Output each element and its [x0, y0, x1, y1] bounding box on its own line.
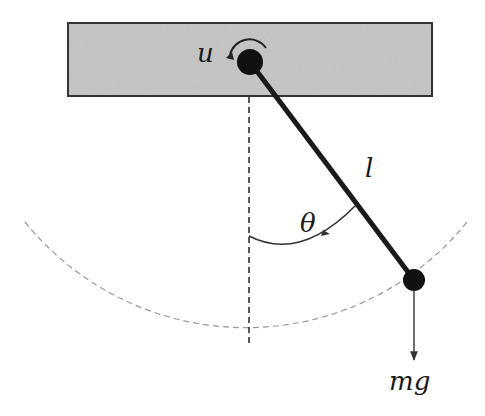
pivot-joint [237, 49, 263, 75]
pendulum-mass [403, 269, 425, 291]
gravity-label: mg [389, 368, 430, 394]
angle-label: θ [300, 210, 316, 236]
length-label: l [365, 155, 373, 181]
swing-path-arc [25, 222, 467, 328]
torque-label: u [197, 40, 214, 66]
pendulum-diagram [0, 0, 485, 416]
